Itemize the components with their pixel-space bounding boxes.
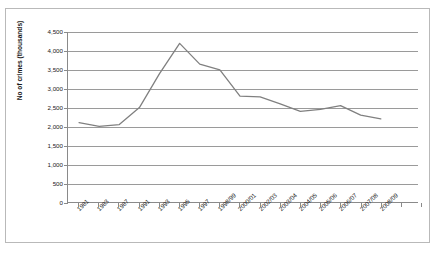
x-axis-tick-labels: 19811983198719911993199519971998/992000/… [67,208,418,253]
y-axis-tick-label: 0 [60,200,63,206]
y-axis-tick-label: 3,000 [48,86,63,92]
y-axis-tick-label: 2,500 [48,105,63,111]
figure-frame: No of crimes (thousands) 05001,0001,5002… [5,8,430,243]
y-axis-tick-label: 500 [53,181,63,187]
y-axis-tick-label: 4,000 [48,48,63,54]
chart-screenshot: No of crimes (thousands) 05001,0001,5002… [0,0,438,253]
y-axis-tick-label: 3,500 [48,67,63,73]
y-axis-tick-label: 1,000 [48,162,63,168]
y-axis-title: No of crimes (thousands) [16,0,23,126]
series-line-no-of-crimes [68,32,418,202]
y-axis-tick-label: 2,000 [48,124,63,130]
y-axis-tick-label: 1,500 [48,143,63,149]
y-axis-tick-labels: 05001,0001,5002,0002,5003,0003,5004,0004… [32,32,63,203]
x-axis-tick [401,203,402,207]
y-axis-tick-label: 4,500 [48,29,63,35]
x-axis-tick [421,203,422,207]
plot-area [67,32,418,203]
